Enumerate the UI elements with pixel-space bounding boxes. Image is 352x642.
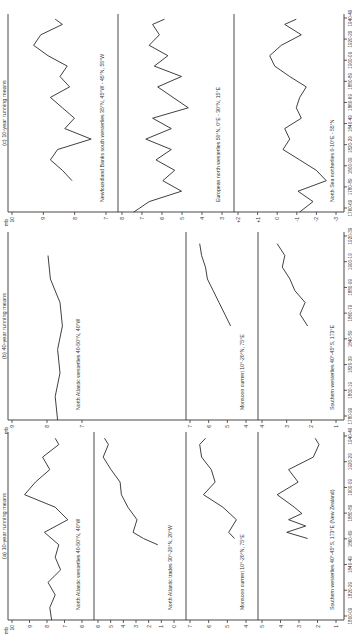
y-tick-label: 8 xyxy=(44,625,50,628)
y-tick-label: 4 xyxy=(243,625,249,628)
y-tick-label: 6 xyxy=(159,217,165,220)
x-tick-label: 1880-89 xyxy=(348,504,352,521)
x-tick-label: 1780-89 xyxy=(348,178,352,195)
y-tick-label: 4 xyxy=(243,425,249,428)
y-tick-label: 7 xyxy=(62,625,68,628)
subplot-title: North Atlantic westerlies 40-50°N, 40°W xyxy=(75,518,81,610)
panel-caption: (c) 10-year running means xyxy=(1,80,7,146)
y-tick-label: 9 xyxy=(9,425,15,428)
y-tick-label: 9 xyxy=(27,625,33,628)
y-tick-label: -3 xyxy=(333,217,339,222)
unit-label: mb xyxy=(3,219,9,226)
y-tick-label: 6 xyxy=(79,625,85,628)
x-tick-label: 1820-39 xyxy=(348,356,352,373)
y-tick-label: 4 xyxy=(278,625,284,628)
y-tick-label: 7 xyxy=(187,625,193,628)
y-tick-label: 2 xyxy=(308,425,314,428)
y-tick-label: 1 xyxy=(333,625,339,628)
rotated-figure: 109876North Atlantic westerlies 40-50°N,… xyxy=(0,0,352,642)
x-tick-label: 1940-49 xyxy=(348,427,352,444)
unit-label: mb xyxy=(3,427,9,434)
data-series-line xyxy=(200,244,231,326)
y-tick-label: 2 xyxy=(315,625,321,628)
x-tick-label: 1880-99 xyxy=(348,279,352,296)
data-series-line xyxy=(103,438,158,545)
x-tick-label: 1840-59 xyxy=(348,330,352,347)
y-tick-label: 3 xyxy=(133,625,139,628)
y-tick-label: 3 xyxy=(284,425,290,428)
y-tick-label: 5 xyxy=(224,425,230,428)
y-tick-label: 5 xyxy=(224,625,230,628)
subplot-title: North Atlantic westerlies 40-50°N, 40°W xyxy=(75,318,81,410)
y-tick-label: 0 xyxy=(171,625,177,628)
data-series-line xyxy=(25,438,68,620)
y-tick-label: 4 xyxy=(120,625,126,628)
unit-label: mb xyxy=(3,627,9,634)
data-series-line xyxy=(34,19,92,181)
panel-caption: (a) 10-year running means xyxy=(1,493,7,559)
y-tick-label: 7 xyxy=(187,425,193,428)
data-series-line xyxy=(134,19,188,212)
subplot-title: Newfoundland Banks south westerlies 35°N… xyxy=(99,54,105,202)
x-tick-label: 1900-09 xyxy=(348,51,352,68)
y-tick-label: 7 xyxy=(79,425,85,428)
x-tick-label: 1920-39 xyxy=(348,227,352,244)
x-tick-label: 1800-09 xyxy=(348,157,352,174)
y-tick-label: 6 xyxy=(206,625,212,628)
figure-stage: 109876North Atlantic westerlies 40-50°N,… xyxy=(0,0,352,642)
data-series-line xyxy=(277,244,307,326)
x-tick-label: 1880-89 xyxy=(348,72,352,89)
y-tick-label: 2 xyxy=(146,625,152,628)
x-tick-label: 1840-49 xyxy=(348,556,352,573)
y-tick-label: +1 xyxy=(255,217,261,223)
y-tick-label: 9 xyxy=(40,217,46,220)
y-tick-label: 5 xyxy=(259,625,265,628)
x-tick-label: 1900-19 xyxy=(348,253,352,270)
y-tick-label: 8 xyxy=(72,217,78,220)
subplot-title: Monsoon current 10°-20°N, 75°E xyxy=(239,334,245,410)
y-tick-label: 3 xyxy=(296,625,302,628)
x-tick-label: 1860-69 xyxy=(348,94,352,111)
subplot-title: Southern westerlies 40°-45°S, 173°E (New… xyxy=(329,489,335,610)
y-tick-label: -2 xyxy=(313,217,319,222)
y-tick-label: 4 xyxy=(199,217,205,220)
y-tick-label: 6 xyxy=(95,625,101,628)
y-tick-label: 7 xyxy=(139,217,145,220)
x-tick-label: 1860-69 xyxy=(348,530,352,547)
x-tick-label: 1920-29 xyxy=(348,453,352,470)
y-tick-label: 8 xyxy=(119,217,125,220)
x-tick-label: 1800-09 xyxy=(348,607,352,624)
x-tick-label: 1780-99 xyxy=(348,407,352,424)
data-series-line xyxy=(48,256,62,421)
y-tick-label: 4 xyxy=(259,425,265,428)
y-tick-label: 6 xyxy=(206,425,212,428)
y-tick-label: 0 xyxy=(274,217,280,220)
x-tick-label: 1940-49 xyxy=(348,9,352,26)
y-tick-label: -1 xyxy=(294,217,300,222)
y-tick-label: 10 xyxy=(9,217,15,223)
y-tick-label: 1 xyxy=(158,625,164,628)
data-series-line xyxy=(277,438,319,538)
y-tick-label: +2 xyxy=(235,217,241,223)
x-tick-label: 1820-29 xyxy=(348,136,352,153)
y-tick-label: 5 xyxy=(179,217,185,220)
x-tick-label: 1840-49 xyxy=(348,115,352,132)
panel-caption: (b) 40-year running means xyxy=(1,293,7,359)
x-tick-label: 1760-69 xyxy=(348,199,352,216)
subplot-title: Southern westerlies 40°-45°S, 173°E xyxy=(329,325,335,410)
y-tick-label: 7 xyxy=(103,217,109,220)
y-tick-label: 10 xyxy=(9,625,15,631)
y-tick-label: 3 xyxy=(219,217,225,220)
y-tick-label: 1 xyxy=(333,425,339,428)
x-tick-label: 1800-19 xyxy=(348,381,352,398)
data-series-line xyxy=(270,19,327,212)
subplot-title: North Sea northerlies 0-10°E - 55°N xyxy=(329,119,335,202)
figure-canvas: 109876North Atlantic westerlies 40-50°N,… xyxy=(0,0,352,642)
x-tick-label: 1900-09 xyxy=(348,479,352,496)
data-series-line xyxy=(200,438,237,538)
y-tick-label: 8 xyxy=(44,425,50,428)
subplot-title: European north westerlies 50°N, 0°E - 30… xyxy=(215,86,221,202)
x-tick-label: 1820-29 xyxy=(348,581,352,598)
subplot-title: North Atlantic trades 30°-20°N, 20°W xyxy=(167,525,173,610)
x-tick-label: 1860-79 xyxy=(348,304,352,321)
